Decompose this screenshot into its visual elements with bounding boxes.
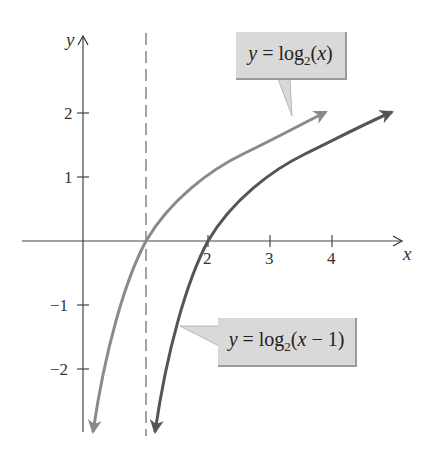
y-tick-label-2: 2	[64, 104, 73, 123]
label-close: − 1)	[306, 328, 344, 350]
x-tick-label-3: 3	[265, 249, 274, 268]
x-tick-label-2: 2	[203, 249, 212, 268]
label-log2-x-minus-1: y = log2(x − 1)	[218, 318, 357, 367]
label-eq: = log	[257, 42, 304, 64]
label-var: x	[317, 42, 326, 64]
y-tick-label-1: 1	[64, 168, 73, 187]
label-eq: = log	[238, 328, 285, 350]
curve-log2-x	[146, 112, 326, 241]
label-close: )	[326, 42, 333, 64]
log-graph: 2 3 4 2 1 −1 −2 x y	[0, 0, 425, 457]
x-axis-label: x	[402, 243, 412, 264]
label-log2-x: y = log2(x)	[236, 32, 347, 80]
y-tick-label-neg2: −2	[50, 360, 68, 379]
label-paren: (	[291, 328, 298, 350]
curve-log2-x-minus-1	[208, 112, 392, 241]
label-y: y	[229, 328, 238, 350]
bottom-callout-pointer	[180, 326, 219, 346]
x-tick-label-4: 4	[327, 249, 336, 268]
top-callout-pointer	[278, 79, 292, 116]
label-y: y	[248, 42, 257, 64]
curve-log2-x-lower	[93, 241, 146, 432]
y-axis-label: y	[64, 29, 75, 50]
y-tick-label-neg1: −1	[50, 296, 68, 315]
